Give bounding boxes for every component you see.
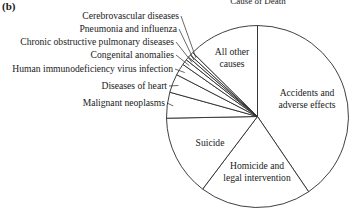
slice-label: Diseases of heart: [101, 80, 167, 91]
slice-label: Malignant neoplasms: [83, 97, 166, 108]
slice-label: Cerebrovascular diseases: [82, 10, 179, 21]
slice-label: Suicide: [196, 137, 225, 148]
slice-label: Homicide andlegal intervention: [223, 160, 291, 183]
slice-label: Chronic obstructive pulmonary diseases: [20, 36, 174, 47]
slice-label: Congenital anomalies: [91, 49, 175, 60]
slice-label: Accidents andadverse effects: [278, 87, 335, 110]
pie-chart: Cause of Death (b) Accidents andadverse …: [0, 0, 355, 210]
slice-label: Human immunodeficiency virus infection: [12, 63, 173, 74]
panel-label: (b): [2, 0, 16, 13]
chart-title: Cause of Death: [230, 0, 286, 6]
leader-line: [176, 42, 192, 62]
slice-label: Pneumonia and influenza: [79, 23, 177, 34]
